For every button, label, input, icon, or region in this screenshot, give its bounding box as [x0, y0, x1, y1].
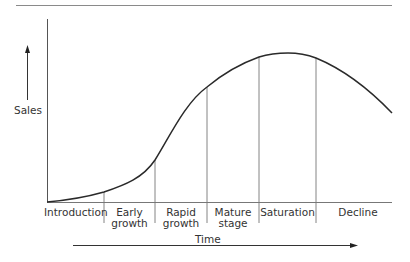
stage-label-decline: Decline — [316, 207, 400, 218]
stage-label-rapid-growth: Rapid growth — [155, 207, 207, 229]
sales-curve — [47, 53, 392, 202]
x-axis-label: Time — [195, 234, 221, 245]
stage-label-saturation: Saturation — [259, 207, 316, 218]
stage-label-mature-stage: Mature stage — [207, 207, 259, 229]
arrow-right-icon — [350, 243, 358, 248]
y-axis-label: Sales — [14, 105, 42, 116]
arrow-up-icon — [25, 45, 30, 53]
stage-label-early-growth: Early growth — [104, 207, 155, 229]
sales-arrow — [25, 45, 30, 100]
stage-label-introduction: Introduction — [44, 207, 108, 218]
stage-dividers — [104, 57, 316, 223]
